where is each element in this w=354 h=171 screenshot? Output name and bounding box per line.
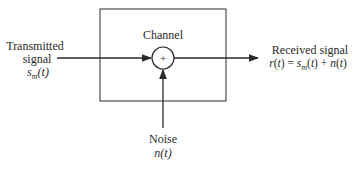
input-expression: sm(t) bbox=[18, 65, 58, 84]
noise-label: Noise bbox=[143, 132, 183, 146]
noise-expression: n(t) bbox=[143, 146, 183, 160]
channel-label: Channel bbox=[133, 28, 193, 42]
output-expression: r(t) = sm(t) + n(t) bbox=[262, 56, 354, 75]
output-label: Received signal bbox=[266, 43, 354, 57]
input-label-line1: Transmitted bbox=[4, 39, 66, 53]
input-label-line2: signal bbox=[18, 52, 56, 66]
adder-symbol: + bbox=[157, 51, 169, 65]
